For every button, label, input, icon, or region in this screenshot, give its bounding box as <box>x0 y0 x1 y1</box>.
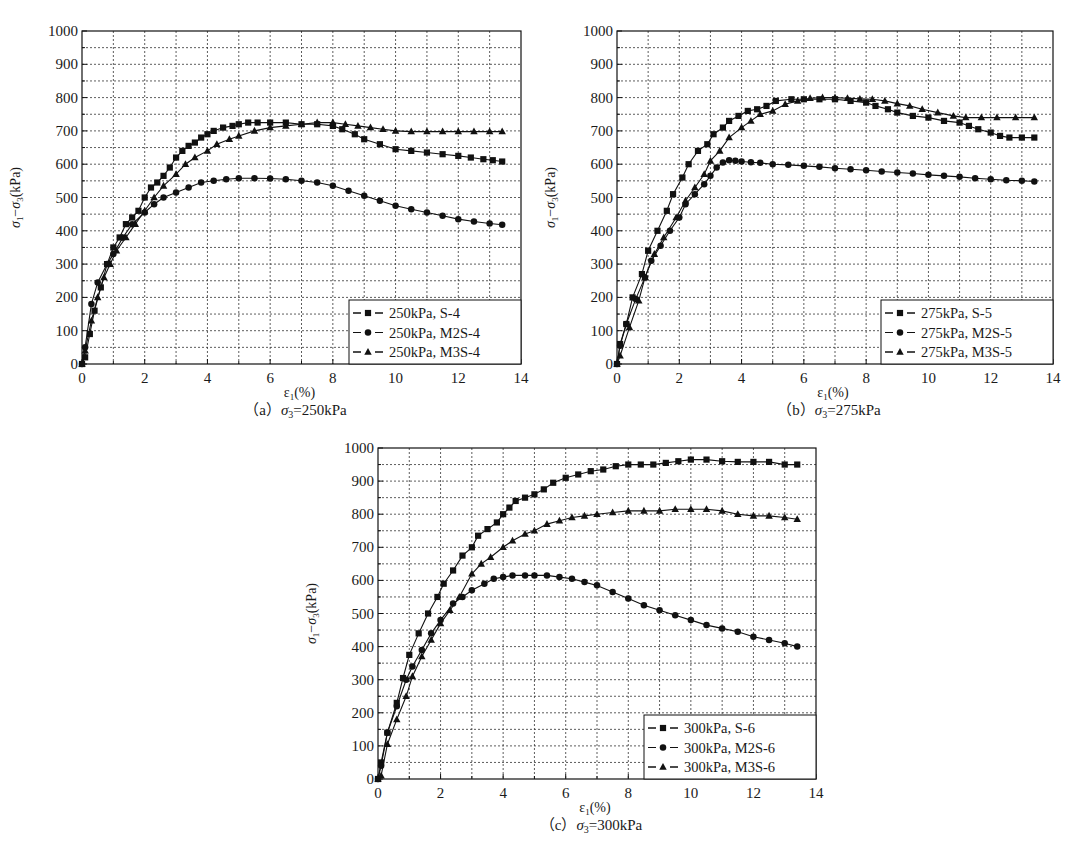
square-marker <box>625 461 631 467</box>
square-marker <box>638 461 644 467</box>
circle-marker <box>987 176 994 183</box>
square-marker <box>123 221 129 227</box>
circle-marker <box>581 579 588 586</box>
square-marker <box>229 123 235 129</box>
y-tick-label: 500 <box>56 190 79 206</box>
square-marker <box>135 208 141 214</box>
circle-marker <box>377 198 384 205</box>
circle-marker <box>361 193 368 200</box>
square-marker <box>872 103 878 109</box>
triangle-marker <box>402 692 409 699</box>
circle-marker <box>894 169 901 176</box>
square-marker <box>425 610 431 616</box>
circle-marker <box>720 159 727 166</box>
square-marker <box>997 133 1003 139</box>
x-tick-label: 12 <box>451 370 466 386</box>
square-marker <box>469 544 475 550</box>
square-marker <box>726 118 732 124</box>
legend-label: 275kPa, M2S-5 <box>921 325 1012 341</box>
circle-marker <box>672 612 679 619</box>
square-marker <box>129 214 135 220</box>
square-marker <box>173 154 179 160</box>
square-marker <box>468 154 474 160</box>
square-marker <box>650 461 656 467</box>
x-axis-label: ε1(%) <box>579 800 611 817</box>
legend: 250kPa, S-4250kPa, M2S-4250kPa, M3S-4 <box>349 300 521 364</box>
square-marker <box>377 141 383 147</box>
triangle-marker <box>700 170 707 177</box>
square-marker <box>782 461 788 467</box>
square-marker <box>925 114 931 120</box>
circle-marker <box>330 183 337 190</box>
circle-marker <box>738 158 745 165</box>
triangle-marker <box>1031 114 1038 121</box>
circle-marker <box>941 173 948 180</box>
square-marker <box>434 594 440 600</box>
x-tick-label: 2 <box>437 785 445 801</box>
x-tick-label: 10 <box>683 785 698 801</box>
legend-label: 250kPa, S-4 <box>389 305 461 321</box>
square-marker <box>339 126 345 132</box>
x-axis-label: ε1(%) <box>284 385 316 402</box>
triangle-marker <box>182 160 189 167</box>
square-marker <box>506 504 512 510</box>
square-marker <box>686 161 692 167</box>
x-tick-label: 6 <box>800 370 808 386</box>
circle-marker <box>223 176 230 183</box>
circle-marker <box>509 572 516 579</box>
x-tick-label: 0 <box>78 370 86 386</box>
legend-label: 275kPa, M3S-5 <box>921 344 1012 360</box>
legend-label: 250kPa, M2S-4 <box>389 325 481 341</box>
triangle-marker <box>531 527 538 534</box>
circle-marker <box>748 159 755 166</box>
x-tick-label: 12 <box>983 370 998 386</box>
square-marker <box>361 136 367 142</box>
x-tick-label: 0 <box>374 785 382 801</box>
square-marker <box>550 480 556 486</box>
circle-marker <box>625 595 632 602</box>
circle-marker <box>556 574 563 581</box>
circle-marker <box>345 188 352 195</box>
y-tick-label: 600 <box>352 572 375 588</box>
circle-marker <box>424 209 431 216</box>
circle-marker <box>544 572 551 579</box>
y-tick-label: 300 <box>591 256 614 272</box>
square-marker <box>1031 134 1037 140</box>
circle-marker <box>757 160 764 167</box>
circle-marker <box>656 607 663 614</box>
square-marker <box>1006 134 1012 140</box>
square-marker <box>513 498 519 504</box>
circle-marker <box>847 166 854 173</box>
square-marker <box>941 118 947 124</box>
y-tick-label: 300 <box>56 256 79 272</box>
circle-marker <box>236 175 243 182</box>
square-marker <box>1019 134 1025 140</box>
square-marker <box>441 581 447 587</box>
chart-panel-b: 0246810121401002003004005006007008009001… <box>543 23 1061 420</box>
square-marker <box>148 184 154 190</box>
square-marker <box>675 458 681 464</box>
circle-marker <box>210 178 217 185</box>
square-marker <box>773 98 779 104</box>
triangle-marker <box>738 124 745 131</box>
circle-marker <box>251 175 258 182</box>
square-marker <box>766 459 772 465</box>
y-tick-label: 1000 <box>48 23 78 39</box>
circle-marker <box>956 174 963 181</box>
y-tick-label: 200 <box>352 705 375 721</box>
square-marker <box>167 164 173 170</box>
triangle-marker <box>765 512 772 519</box>
triangle-marker <box>640 507 647 514</box>
circle-marker <box>94 279 101 286</box>
square-marker <box>245 119 251 125</box>
square-marker <box>424 149 430 155</box>
circle-marker <box>88 301 95 308</box>
y-tick-label: 400 <box>591 223 614 239</box>
circle-marker <box>314 179 321 186</box>
y-tick-label: 400 <box>56 223 79 239</box>
square-marker <box>679 174 685 180</box>
square-marker <box>654 228 660 234</box>
square-marker <box>408 148 414 154</box>
circle-marker <box>863 167 870 174</box>
triangle-marker <box>725 134 732 141</box>
